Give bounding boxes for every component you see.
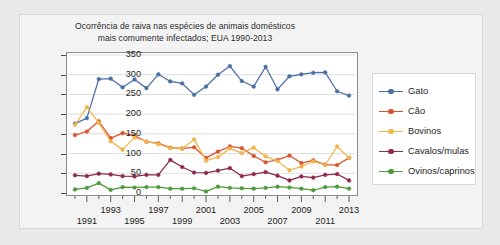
x-axis-tick-label: 2009 [291,205,311,215]
legend-marker-icon [379,146,403,156]
x-axis-tick-label: 2013 [339,205,359,215]
legend-label: Bovinos [403,126,441,136]
data-point [276,174,280,178]
data-point [323,185,327,189]
data-point [192,171,196,175]
legend-label: Cão [403,106,425,116]
y-axis-tick-label: 350 [107,49,141,59]
legend-marker-icon [379,126,403,136]
x-axis-tick-label: 1993 [100,205,120,215]
data-point [204,159,208,163]
y-axis-tick-label: 150 [107,128,141,138]
legend-item-2[interactable]: Cão [379,101,475,121]
data-point [347,187,351,191]
data-point [300,161,304,165]
data-point [85,116,89,120]
data-point [73,173,77,177]
data-point [85,186,89,190]
y-axis-tick-label: 50 [107,167,141,177]
data-point [347,94,351,98]
x-axis-tick-label: 2005 [243,205,263,215]
data-point [276,159,280,163]
legend-item-4[interactable]: Cavalos/mulas [379,141,475,161]
data-point [204,85,208,89]
data-point [97,181,101,185]
x-axis-tick-label: 1997 [148,205,168,215]
data-point [168,158,172,162]
data-point [240,174,244,178]
data-point [276,87,280,91]
data-point [157,173,161,177]
y-axis-tick-label: 250 [107,88,141,98]
data-point [347,156,351,160]
data-point [180,187,184,191]
data-point [264,154,268,158]
data-point [288,186,292,190]
data-point [347,179,351,183]
chart-title-line-1: Ocorrência de raiva nas espécies de anim… [20,21,350,33]
data-point [335,163,339,167]
y-axis-tick-mark [61,193,66,194]
chart-figure: Ocorrência de raiva nas espécies de anim… [19,14,483,229]
data-point [157,72,161,76]
data-point [73,188,77,192]
data-point [216,169,220,173]
legend-item-5[interactable]: Ovinos/caprinos [379,161,475,181]
y-axis-tick-mark [61,114,66,115]
data-point [228,147,232,151]
legend-label: Ovinos/caprinos [403,166,475,176]
x-axis-ticks [66,196,358,203]
data-point [276,185,280,189]
y-axis-tick-mark [61,75,66,76]
data-point [216,155,220,159]
data-point [288,154,292,158]
x-axis-tick-label: 1991 [77,216,97,226]
data-point [288,179,292,183]
y-axis-tick-label: 100 [107,148,141,158]
legend-label: Gato [403,86,428,96]
data-point [157,142,161,146]
data-point [228,166,232,170]
legend-item-1[interactable]: Gato [379,81,475,101]
data-point [216,73,220,77]
data-point [311,188,315,192]
data-point [252,172,256,176]
y-axis-tick-mark [61,154,66,155]
data-point [323,71,327,75]
data-point [300,72,304,76]
data-point [264,65,268,69]
data-point [252,154,256,158]
x-axis-tick-label: 2007 [267,216,287,226]
data-point [311,71,315,75]
data-point [85,105,89,109]
legend-item-3[interactable]: Bovinos [379,121,475,141]
data-point [204,190,208,194]
y-axis-tick-mark [61,55,66,56]
data-point [97,172,101,176]
y-axis-tick-mark [61,94,66,95]
y-axis-tick-mark [61,134,66,135]
data-point [252,187,256,191]
data-point [97,77,101,81]
data-point [252,85,256,89]
data-point [168,146,172,150]
data-point [300,187,304,191]
legend-marker-icon [379,106,403,116]
data-point [240,79,244,83]
data-point [192,186,196,190]
data-point [157,185,161,189]
data-point [145,140,149,144]
y-axis-tick-label: 200 [107,108,141,118]
y-axis-tick-label: 0 [107,187,141,197]
data-point [288,168,292,172]
data-point [323,163,327,167]
x-axis-tick-label: 2001 [196,205,216,215]
data-point [168,187,172,191]
data-point [311,176,315,180]
data-point [228,64,232,68]
legend-marker-icon [379,166,403,176]
data-point [109,140,113,144]
legend-marker-icon [379,86,403,96]
data-point [204,171,208,175]
y-axis-tick-mark [61,173,66,174]
